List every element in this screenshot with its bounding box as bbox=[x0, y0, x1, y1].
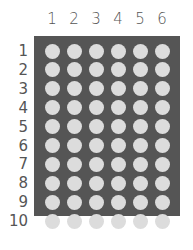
matrix-dot bbox=[89, 176, 104, 191]
matrix-dot bbox=[45, 44, 60, 59]
row-label: 10 bbox=[0, 212, 28, 230]
matrix-dot bbox=[67, 157, 82, 172]
matrix-dot bbox=[111, 81, 126, 96]
matrix-dot bbox=[111, 157, 126, 172]
matrix-dot bbox=[67, 44, 82, 59]
matrix-dot bbox=[155, 81, 170, 96]
matrix-dot bbox=[133, 157, 148, 172]
matrix-dot bbox=[89, 62, 104, 77]
row-label: 3 bbox=[0, 80, 28, 98]
matrix-dot bbox=[67, 81, 82, 96]
matrix-dot bbox=[133, 100, 148, 115]
row-label: 2 bbox=[0, 61, 28, 79]
matrix-dot bbox=[67, 195, 82, 210]
matrix-dot bbox=[67, 138, 82, 153]
matrix-dot bbox=[111, 176, 126, 191]
matrix-dot bbox=[111, 138, 126, 153]
column-label: 3 bbox=[86, 10, 106, 28]
matrix-dot bbox=[133, 214, 148, 229]
matrix-dot bbox=[45, 157, 60, 172]
matrix-dot bbox=[89, 138, 104, 153]
matrix-dot bbox=[45, 195, 60, 210]
row-label: 9 bbox=[0, 193, 28, 211]
matrix-dot bbox=[45, 176, 60, 191]
matrix-dot bbox=[111, 44, 126, 59]
matrix-dot bbox=[67, 176, 82, 191]
matrix-dot bbox=[67, 119, 82, 134]
column-label: 5 bbox=[130, 10, 150, 28]
matrix-dot bbox=[89, 44, 104, 59]
matrix-dot bbox=[133, 138, 148, 153]
column-label: 2 bbox=[64, 10, 84, 28]
matrix-dot bbox=[45, 214, 60, 229]
matrix-dot bbox=[111, 214, 126, 229]
column-label: 6 bbox=[152, 10, 172, 28]
matrix-dot bbox=[155, 100, 170, 115]
matrix-dot bbox=[67, 62, 82, 77]
matrix-dot bbox=[45, 100, 60, 115]
matrix-dot bbox=[111, 119, 126, 134]
matrix-dot bbox=[45, 81, 60, 96]
matrix-dot bbox=[133, 62, 148, 77]
matrix-dot bbox=[111, 195, 126, 210]
matrix-dot bbox=[67, 214, 82, 229]
matrix-dot bbox=[155, 176, 170, 191]
matrix-dot bbox=[45, 138, 60, 153]
column-label: 1 bbox=[42, 10, 62, 28]
row-label: 1 bbox=[0, 42, 28, 60]
matrix-dot bbox=[155, 195, 170, 210]
matrix-dot bbox=[45, 62, 60, 77]
matrix-dot bbox=[67, 100, 82, 115]
matrix-dot bbox=[155, 44, 170, 59]
row-label: 5 bbox=[0, 118, 28, 136]
matrix-dot bbox=[111, 100, 126, 115]
matrix-dot bbox=[133, 81, 148, 96]
matrix-dot bbox=[89, 195, 104, 210]
matrix-dot bbox=[155, 157, 170, 172]
matrix-dot bbox=[89, 214, 104, 229]
dot-matrix-panel bbox=[34, 36, 180, 216]
matrix-dot bbox=[45, 119, 60, 134]
matrix-dot bbox=[155, 119, 170, 134]
matrix-dot bbox=[133, 195, 148, 210]
matrix-dot bbox=[133, 176, 148, 191]
row-label: 6 bbox=[0, 137, 28, 155]
matrix-dot bbox=[89, 157, 104, 172]
matrix-dot bbox=[111, 62, 126, 77]
row-label: 4 bbox=[0, 99, 28, 117]
row-label: 7 bbox=[0, 155, 28, 173]
matrix-dot bbox=[155, 214, 170, 229]
row-label: 8 bbox=[0, 174, 28, 192]
matrix-dot bbox=[155, 62, 170, 77]
matrix-dot bbox=[133, 44, 148, 59]
matrix-dot bbox=[133, 119, 148, 134]
column-label: 4 bbox=[108, 10, 128, 28]
matrix-dot bbox=[89, 81, 104, 96]
matrix-dot bbox=[89, 119, 104, 134]
matrix-dot bbox=[155, 138, 170, 153]
matrix-dot bbox=[89, 100, 104, 115]
